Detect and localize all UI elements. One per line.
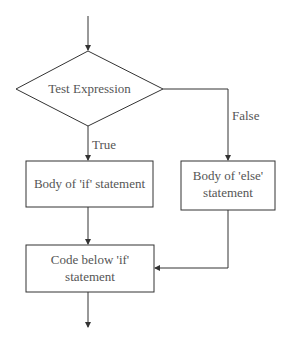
if-body-label: Body of 'if' statement	[26, 176, 153, 192]
test-expression-label: Test Expression	[16, 81, 163, 97]
false-arrow	[163, 89, 228, 160]
else-body-label-line2: statement	[181, 185, 275, 201]
true-label: True	[92, 137, 116, 153]
code-below-label-line2: statement	[26, 269, 154, 285]
else-body-label-line1: Body of 'else'	[181, 168, 275, 184]
else-to-code-arrow	[155, 210, 228, 268]
flowchart-canvas: Test Expression True False Body of 'if' …	[0, 0, 289, 346]
code-below-label-line1: Code below 'if'	[26, 252, 154, 268]
false-label: False	[232, 108, 259, 124]
